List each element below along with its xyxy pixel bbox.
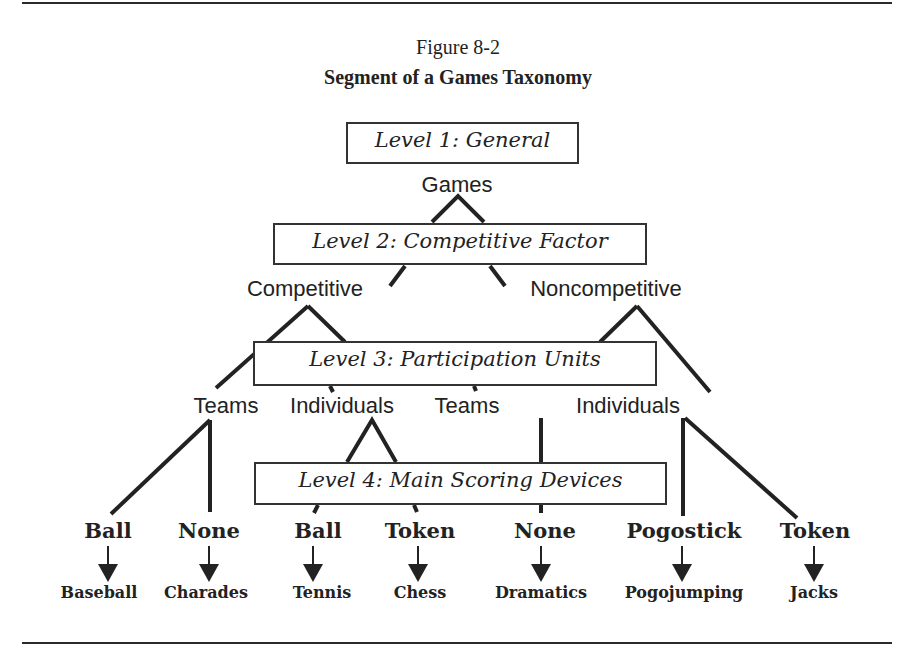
node-ball-1: Ball	[84, 518, 131, 543]
node-none-1: None	[178, 518, 240, 543]
node-none-2: None	[514, 518, 576, 543]
example-charades: Charades	[164, 583, 248, 602]
level-2-label: Level 2: Competitive Factor	[312, 229, 608, 253]
node-token-2: Token	[780, 518, 850, 543]
level-4-label: Level 4: Main Scoring Devices	[298, 468, 622, 492]
connector-noncomp-teams	[600, 306, 637, 342]
level-3-box: Level 3: Participation Units	[253, 341, 657, 386]
level-1-label: Level 1: General	[375, 128, 551, 152]
connector-comp-indiv	[308, 306, 345, 342]
node-teams-competitive: Teams	[194, 393, 259, 419]
tree-connectors	[0, 0, 916, 664]
level-4-box: Level 4: Main Scoring Devices	[254, 462, 667, 505]
connector-l4-ball-stub	[314, 505, 318, 513]
node-teams-noncompetitive: Teams	[435, 393, 500, 419]
node-individuals-noncompetitive: Individuals	[576, 393, 680, 419]
connector-indiv-level4	[347, 420, 396, 462]
level-3-label: Level 3: Participation Units	[309, 347, 601, 371]
connector-l3-indiv-stub	[330, 386, 333, 392]
node-pogostick: Pogostick	[627, 518, 742, 543]
connector-competitive	[390, 266, 405, 286]
node-noncompetitive: Noncompetitive	[530, 276, 682, 302]
example-chess: Chess	[394, 583, 447, 602]
connector-noncompetitive	[490, 266, 505, 286]
connector-indiv-token	[685, 418, 797, 518]
level-2-box: Level 2: Competitive Factor	[273, 223, 647, 265]
arrowheads	[98, 564, 824, 582]
figure-page: Figure 8-2 Segment of a Games Taxonomy	[0, 0, 916, 664]
node-games: Games	[422, 172, 493, 198]
connector-teams-ball	[111, 420, 210, 514]
example-tennis: Tennis	[293, 583, 352, 602]
connector-l3-teams-stub	[474, 386, 476, 391]
node-competitive: Competitive	[247, 276, 363, 302]
example-baseball: Baseball	[61, 583, 138, 602]
example-pogojumping: Pogojumping	[625, 583, 744, 602]
connector-l4-token-stub	[414, 505, 417, 512]
example-jacks: Jacks	[790, 583, 838, 602]
level-1-box: Level 1: General	[346, 122, 579, 164]
node-ball-2: Ball	[294, 518, 341, 543]
node-individuals-competitive: Individuals	[290, 393, 394, 419]
connector-games	[432, 196, 484, 222]
node-token-1: Token	[385, 518, 455, 543]
bottom-rule	[22, 642, 892, 644]
example-dramatics: Dramatics	[495, 583, 587, 602]
